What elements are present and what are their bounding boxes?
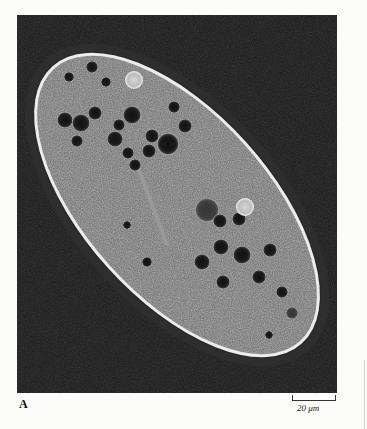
paramecium-cell-image [17,15,337,393]
page-edge-divider [364,360,365,429]
micrograph-panel [17,15,337,393]
scale-bar [292,395,336,401]
panel-label: A [19,397,28,412]
scale-bar-label: 20 μm [297,403,319,413]
